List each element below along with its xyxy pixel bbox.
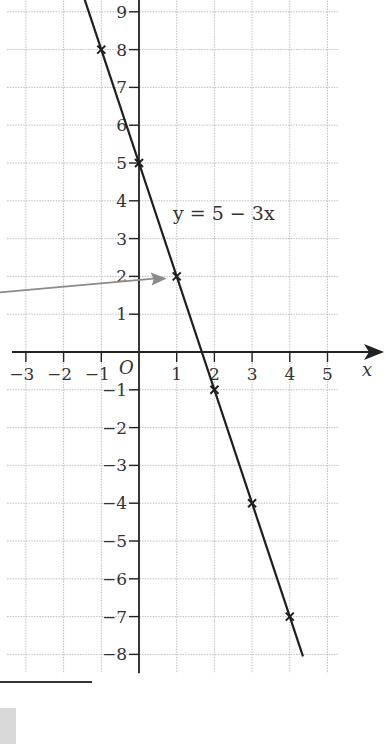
divider-rule [0,681,92,683]
y-tick-label: −6 [102,569,127,589]
x-tick-label: 1 [171,364,182,384]
series-line [84,0,303,656]
annotations [0,272,167,292]
y-tick-label: 4 [116,191,127,211]
x-tick-label: 3 [247,364,258,384]
y-tick-label: −7 [102,607,127,627]
x-tick-label: −2 [47,364,72,384]
y-tick-label: −1 [102,380,127,400]
x-axis-label: x [362,359,372,380]
x-tick-label: 4 [284,364,295,384]
y-tick-label: 9 [116,2,127,22]
y-tick-label: −5 [102,531,127,551]
y-tick-label: 7 [116,77,127,97]
axes [12,0,384,673]
equation-label: y = 5 − 3x [172,202,275,224]
x-tick-label: 5 [322,364,333,384]
y-tick-label: 1 [116,304,127,324]
series [84,0,303,656]
y-tick-label: −8 [102,644,127,664]
y-tick-label: 5 [116,153,127,173]
grid [7,0,339,673]
annotation-arrow-shaft [0,278,157,292]
y-tick-label: −4 [102,493,127,513]
origin-label: O [119,357,134,378]
page-tab-marker [0,708,16,744]
ticks: −3−2−112345987654321−1−2−3−4−5−6−7−8 [9,2,333,665]
y-tick-label: 3 [116,229,127,249]
y-tick-label: 2 [116,266,127,286]
y-tick-label: −3 [102,455,127,475]
y-tick-label: 8 [116,40,127,60]
x-tick-label: −3 [9,364,34,384]
line-graph: −3−2−112345987654321−1−2−3−4−5−6−7−8 O x… [0,0,392,744]
y-tick-label: −2 [102,418,127,438]
